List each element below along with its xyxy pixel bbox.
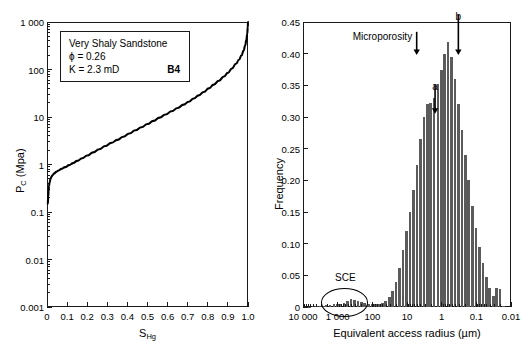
arrow-b-icon — [455, 15, 461, 55]
info-sample-id: B4 — [167, 63, 180, 76]
info-permeability: K = 2.3 mD — [69, 64, 119, 75]
arrow-microporosity-icon — [413, 32, 419, 55]
sce-ellipse — [321, 288, 368, 317]
arrow-a-icon — [432, 85, 438, 114]
capillary-pressure-panel: 1 0001001010.10.010.001 00.10.20.30.40.5… — [0, 0, 261, 360]
info-permeability-row: K = 2.3 mD B4 — [69, 63, 182, 76]
info-title: Very Shaly Sandstone — [69, 37, 182, 50]
figure-root: 1 0001001010.10.010.001 00.10.20.30.40.5… — [0, 0, 522, 360]
pore-size-distribution-panel: 00.050.100.150.200.250.300.350.400.45 10… — [261, 0, 522, 360]
info-porosity: ϕ = 0.26 — [69, 50, 182, 63]
annotation-arrows — [261, 0, 522, 360]
sample-info-box: Very Shaly Sandstone ϕ = 0.26 K = 2.3 mD… — [60, 31, 190, 82]
